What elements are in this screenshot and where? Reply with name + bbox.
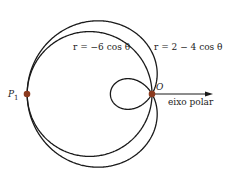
p1-label: P1 (7, 89, 19, 102)
origin-label: O (156, 82, 164, 92)
arrow-head-icon (205, 92, 213, 97)
polar-axis-label: eixo polar (168, 97, 214, 107)
limacon-equation-label: r = 2 − 4 cos θ (154, 42, 223, 52)
circle-equation-label: r = −6 cos θ (73, 42, 130, 52)
point-origin (149, 91, 156, 98)
polar-diagram: P1 O eixo polar r = −6 cos θ r = 2 − 4 c… (0, 0, 225, 180)
point-p1 (24, 91, 31, 98)
